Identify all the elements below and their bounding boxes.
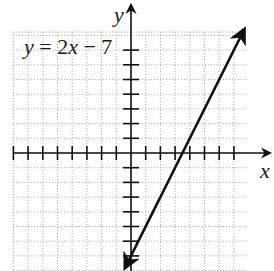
- x-axis-label: x: [260, 158, 270, 184]
- y-axis-label: y: [114, 2, 124, 28]
- equation-label: y = 2x − 7: [24, 34, 112, 60]
- grid: [13, 32, 247, 271]
- line-series: [125, 30, 244, 268]
